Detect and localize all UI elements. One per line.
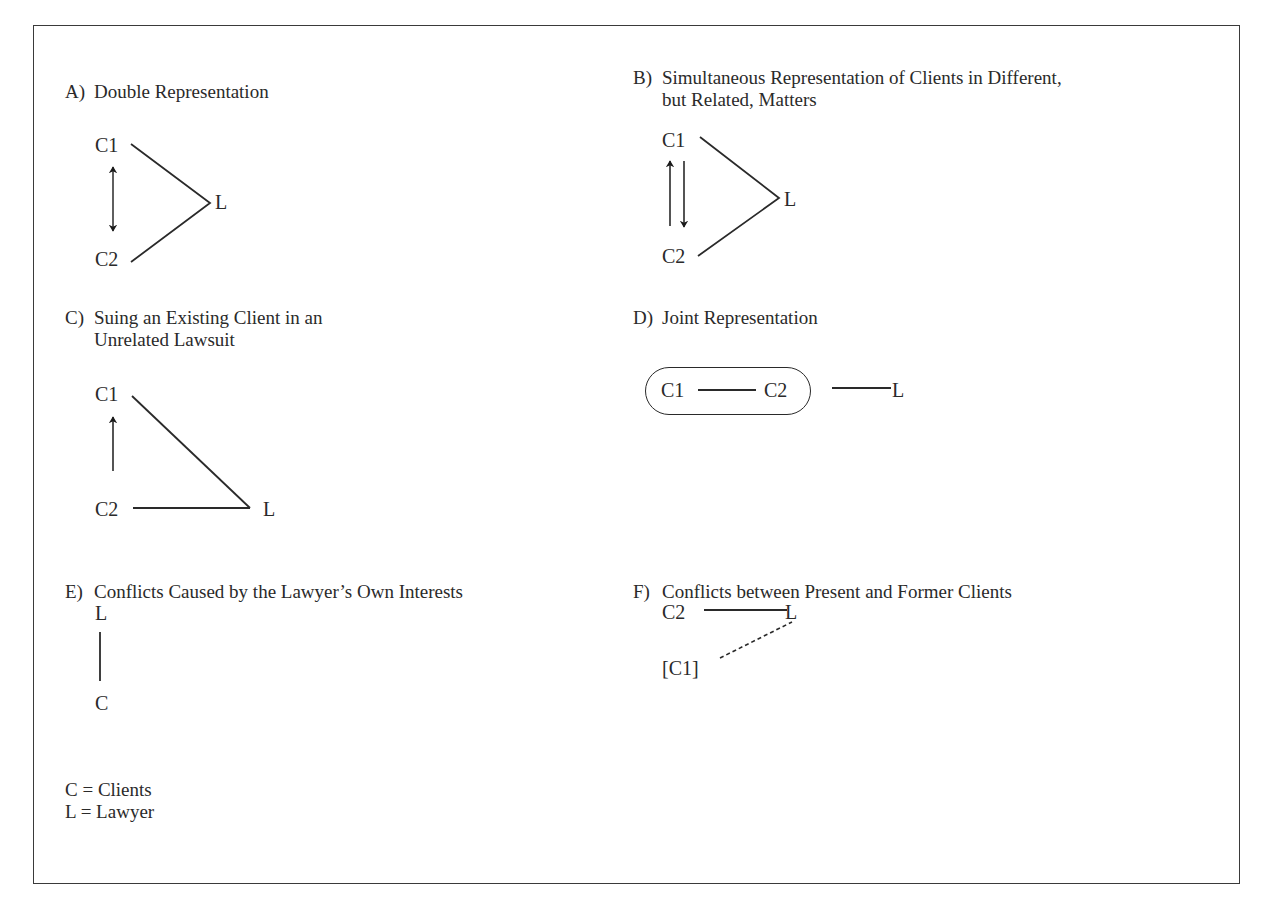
panel-c-heading: C)Suing an Existing Client in an Unrelat… (65, 307, 323, 351)
panel-a-node-c1: C1 (95, 134, 118, 156)
panel-b-title-line1: Simultaneous Representation of Clients i… (662, 67, 1062, 88)
panel-b-heading: B)Simultaneous Representation of Clients… (633, 67, 1062, 111)
panel-f-heading: F)Conflicts between Present and Former C… (633, 581, 1012, 603)
panel-d-node-l: L (892, 379, 904, 401)
panel-f-letter: F) (633, 581, 662, 603)
panel-a-heading: A)Double Representation (65, 81, 269, 103)
panel-b-title-line2: but Related, Matters (633, 89, 1062, 111)
panel-c-letter: C) (65, 307, 94, 329)
panel-b-node-l: L (784, 188, 796, 210)
panel-d-title: Joint Representation (662, 307, 818, 328)
panel-d-node-c2: C2 (764, 379, 787, 401)
panel-d-letter: D) (633, 307, 662, 329)
panel-a-letter: A) (65, 81, 94, 103)
panel-b-letter: B) (633, 67, 662, 89)
panel-f-node-c2: C2 (662, 601, 685, 623)
panel-c-node-l: L (263, 498, 275, 520)
diagram-frame (33, 25, 1240, 884)
legend: C = Clients L = Lawyer (65, 779, 154, 823)
panel-f-node-l: L (785, 601, 797, 623)
panel-a-node-l: L (215, 191, 227, 213)
panel-d-node-c1: C1 (661, 379, 684, 401)
legend-item-lawyer: L = Lawyer (65, 801, 154, 823)
panel-b-node-c2: C2 (662, 245, 685, 267)
panel-a-title: Double Representation (94, 81, 269, 102)
panel-c-title-line1: Suing an Existing Client in an (94, 307, 323, 328)
legend-item-clients: C = Clients (65, 779, 154, 801)
panel-c-node-c1: C1 (95, 383, 118, 405)
panel-a-node-c2: C2 (95, 248, 118, 270)
panel-e-letter: E) (65, 581, 94, 603)
panel-b-node-c1: C1 (662, 129, 685, 151)
panel-f-node-former-c1: [C1] (662, 657, 699, 679)
panel-d-heading: D)Joint Representation (633, 307, 818, 329)
panel-e-heading: E)Conflicts Caused by the Lawyer’s Own I… (65, 581, 463, 603)
panel-e-node-l: L (95, 602, 107, 624)
panel-c-title-line2: Unrelated Lawsuit (65, 329, 323, 351)
panel-e-title: Conflicts Caused by the Lawyer’s Own Int… (94, 581, 463, 602)
panel-e-node-c: C (95, 692, 108, 714)
panel-c-node-c2: C2 (95, 498, 118, 520)
panel-f-title: Conflicts between Present and Former Cli… (662, 581, 1012, 602)
